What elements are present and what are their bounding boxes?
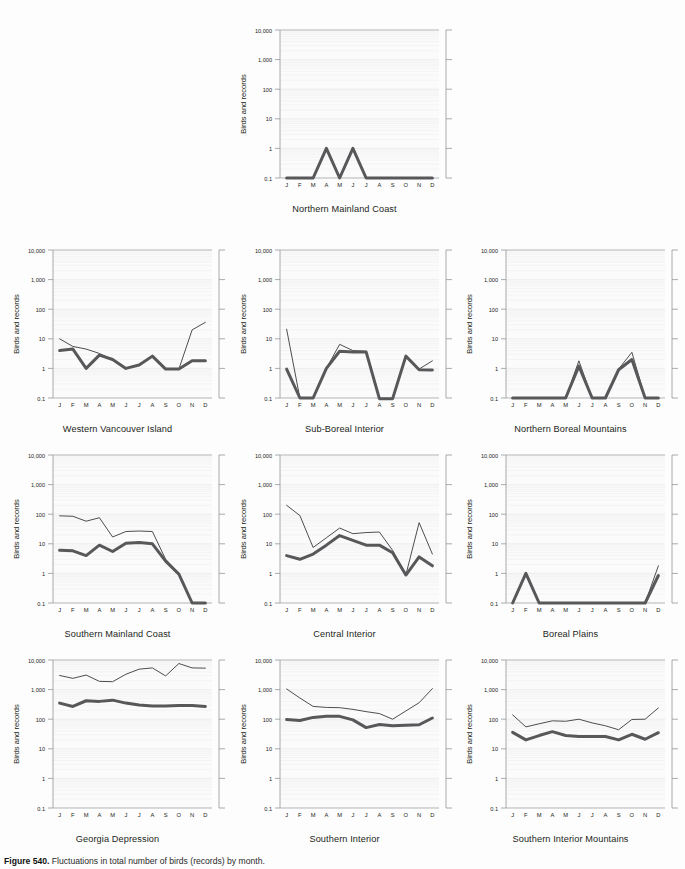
chart-plot: 10,0001,0001001010.1JFMAMJJASONDBirds an… xyxy=(232,443,457,631)
panel-title: Northern Boreal Mountains xyxy=(458,424,683,434)
y-axis-tick-label: 1,000 xyxy=(31,687,45,693)
x-axis-tick-label: M xyxy=(311,607,316,613)
y-axis-tick-label: 10 xyxy=(492,336,498,342)
x-axis-tick-label: A xyxy=(324,182,328,188)
panel-title: Northern Mainland Coast xyxy=(232,204,457,214)
y-axis-tick-label: 1,000 xyxy=(484,482,498,488)
y-axis-tick-label: 0.1 xyxy=(37,396,45,402)
x-axis-tick-label: A xyxy=(97,402,101,408)
figure-caption-text: Fluctuations in total number of birds (r… xyxy=(52,856,265,866)
x-axis-tick-label: N xyxy=(643,812,647,818)
x-axis-tick-label: J xyxy=(577,402,580,408)
y-axis-tick-label: 1 xyxy=(42,776,45,782)
x-axis-tick-label: A xyxy=(377,607,381,613)
x-axis-tick-label: F xyxy=(298,607,302,613)
x-axis-tick-label: F xyxy=(298,182,302,188)
x-axis-tick-label: A xyxy=(603,812,607,818)
y-axis-tick-label: 1,000 xyxy=(258,57,272,63)
x-axis-tick-label: M xyxy=(311,182,316,188)
x-axis-tick-label: M xyxy=(110,812,115,818)
x-axis-tick-label: S xyxy=(391,402,395,408)
x-axis-tick-label: A xyxy=(550,607,554,613)
x-axis-tick-label: A xyxy=(97,812,101,818)
x-axis-tick-label: J xyxy=(138,607,141,613)
y-axis-tick-label: 10,000 xyxy=(255,28,272,34)
x-axis: JFMAMJJASOND xyxy=(58,607,207,613)
x-axis-tick-label: J xyxy=(577,812,580,818)
x-axis-tick-label: F xyxy=(298,812,302,818)
x-axis-tick-label: A xyxy=(550,812,554,818)
chart-plot: 10,0001,0001001010.1JFMAMJJASONDBirds an… xyxy=(232,18,457,206)
y-axis-tick-label: 10,000 xyxy=(255,248,272,254)
panel-title: Southern Mainland Coast xyxy=(5,629,230,639)
y-axis-tick-label: 100 xyxy=(263,307,272,313)
y-axis-title: Birds and records xyxy=(239,74,248,134)
x-axis-tick-label: A xyxy=(377,402,381,408)
y-axis-tick-label: 0.1 xyxy=(264,806,272,812)
panel-title: Southern Interior xyxy=(232,834,457,844)
x-axis-tick-label: N xyxy=(643,607,647,613)
x-axis-tick-label: M xyxy=(311,402,316,408)
y-axis-tick-label: 10,000 xyxy=(255,658,272,664)
x-axis-tick-label: O xyxy=(177,607,182,613)
plot-background xyxy=(280,30,439,178)
panel-title: Southern Interior Mountains xyxy=(458,834,683,844)
y-axis-tick-label: 1 xyxy=(269,146,272,152)
x-axis-tick-label: A xyxy=(324,402,328,408)
chart-panel: 10,0001,0001001010.1JFMAMJJASONDBirds an… xyxy=(5,648,230,853)
x-axis-tick-label: M xyxy=(563,402,568,408)
x-axis-tick-label: M xyxy=(311,812,316,818)
y-axis-tick-label: 1 xyxy=(42,366,45,372)
x-axis-tick-label: N xyxy=(417,812,421,818)
chart-plot: 10,0001,0001001010.1JFMAMJJASONDBirds an… xyxy=(232,648,457,836)
x-axis-tick-label: S xyxy=(617,812,621,818)
x-axis-tick-label: M xyxy=(337,182,342,188)
y-axis-tick-label: 1,000 xyxy=(31,482,45,488)
y-axis-tick-label: 10,000 xyxy=(481,658,498,664)
plot-background xyxy=(280,455,439,603)
chart-plot: 10,0001,0001001010.1JFMAMJJASONDBirds an… xyxy=(5,648,230,836)
x-axis: JFMAMJJASOND xyxy=(285,812,434,818)
x-axis-tick-label: M xyxy=(537,812,542,818)
x-axis-tick-label: S xyxy=(617,402,621,408)
chart-panel: 10,0001,0001001010.1JFMAMJJASONDBirds an… xyxy=(458,238,683,443)
x-axis-tick-label: J xyxy=(351,812,354,818)
plot-background xyxy=(53,660,212,808)
x-axis-tick-label: M xyxy=(84,402,89,408)
y-axis-tick-label: 0.1 xyxy=(37,806,45,812)
y-axis-tick-label: 1,000 xyxy=(258,482,272,488)
x-axis-tick-label: D xyxy=(656,812,660,818)
x-axis-tick-label: O xyxy=(630,402,635,408)
chart-plot: 10,0001,0001001010.1JFMAMJJASONDBirds an… xyxy=(5,238,230,426)
x-axis: JFMAMJJASOND xyxy=(511,812,660,818)
chart-plot: 10,0001,0001001010.1JFMAMJJASONDBirds an… xyxy=(232,238,457,426)
plot-background xyxy=(53,455,212,603)
x-axis-tick-label: A xyxy=(603,607,607,613)
y-axis-tick-label: 100 xyxy=(36,307,45,313)
chart-plot: 10,0001,0001001010.1JFMAMJJASONDBirds an… xyxy=(458,648,683,836)
x-axis-tick-label: A xyxy=(150,402,154,408)
y-axis-tick-label: 0.1 xyxy=(264,176,272,182)
y-axis-tick-label: 10 xyxy=(492,746,498,752)
x-axis-tick-label: N xyxy=(417,182,421,188)
x-axis-tick-label: M xyxy=(337,607,342,613)
x-axis-tick-label: S xyxy=(391,812,395,818)
x-axis-tick-label: F xyxy=(524,607,528,613)
panel-title: Central Interior xyxy=(232,629,457,639)
x-axis-tick-label: N xyxy=(417,607,421,613)
x-axis-tick-label: A xyxy=(324,812,328,818)
panel-title: Sub-Boreal Interior xyxy=(232,424,457,434)
y-axis-tick-label: 10,000 xyxy=(481,453,498,459)
y-axis-tick-label: 0.1 xyxy=(490,601,498,607)
x-axis-tick-label: N xyxy=(190,402,194,408)
chart-panel: 10,0001,0001001010.1JFMAMJJASONDBirds an… xyxy=(5,238,230,443)
x-axis-tick-label: J xyxy=(124,607,127,613)
x-axis-tick-label: M xyxy=(563,812,568,818)
x-axis-tick-label: D xyxy=(430,812,434,818)
x-axis-tick-label: F xyxy=(71,607,75,613)
x-axis-tick-label: M xyxy=(110,402,115,408)
x-axis-tick-label: O xyxy=(404,607,409,613)
x-axis-tick-label: F xyxy=(524,402,528,408)
plot-background xyxy=(53,250,212,398)
x-axis-tick-label: M xyxy=(84,607,89,613)
